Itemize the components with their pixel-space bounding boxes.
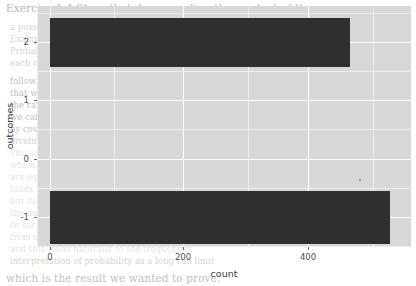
- gridline-major-y-1: [37, 100, 411, 101]
- x-tick-mark: [50, 247, 51, 250]
- plot-panel: [37, 6, 411, 247]
- y-tick-mark: [34, 217, 37, 218]
- scan-speck: [359, 179, 361, 181]
- x-tick-label-0: 0: [47, 252, 52, 262]
- chart-root: Exercise 1.4 Show that, by expanding the…: [0, 0, 416, 286]
- bar-outcome--1: [50, 191, 390, 244]
- y-tick-mark: [34, 159, 37, 160]
- gridline-minor-y: [37, 246, 411, 247]
- x-tick-mark: [183, 247, 184, 250]
- x-tick-label-400: 400: [300, 252, 316, 262]
- y-tick-label-1: 1: [24, 95, 29, 105]
- x-tick-mark: [308, 247, 309, 250]
- y-tick-label-2: 2: [24, 37, 29, 47]
- gridline-major-y-0: [37, 159, 411, 160]
- gridline-minor-y: [37, 188, 411, 189]
- gridline-minor-y: [37, 129, 411, 130]
- y-tick-label-0: 0: [24, 154, 29, 164]
- watermark-line: which is the result we wanted to prove.: [6, 272, 220, 284]
- y-tick-mark: [34, 100, 37, 101]
- bar-outcome-2: [50, 18, 350, 67]
- gridline-minor-y: [37, 13, 411, 14]
- gridline-minor-y: [37, 71, 411, 72]
- x-tick-label-200: 200: [175, 252, 191, 262]
- y-tick-mark: [34, 42, 37, 43]
- x-axis-title: count: [211, 268, 238, 279]
- y-axis-title: outcomes: [4, 103, 15, 150]
- y-tick-label--1: -1: [21, 212, 29, 222]
